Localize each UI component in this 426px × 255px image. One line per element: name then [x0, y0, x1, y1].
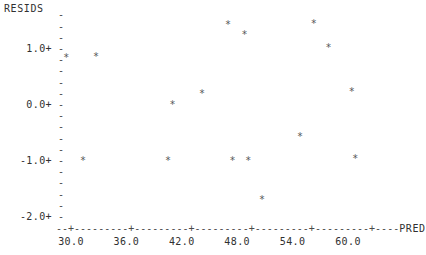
data-point-marker: * [244, 157, 252, 165]
y-axis-tick-label: 1.0+ [0, 43, 52, 54]
y-axis-tick-mark: - [57, 212, 65, 222]
y-axis-tick-mark: - [57, 10, 65, 20]
y-axis-tick-label: -2.0+ [0, 211, 52, 222]
x-axis-name: PRED [399, 223, 425, 234]
x-axis-tick-label: 54.0 [280, 236, 306, 247]
data-point-marker: * [229, 157, 237, 165]
x-axis-tick-label: 42.0 [169, 236, 195, 247]
data-point-marker: * [258, 196, 266, 204]
x-axis-tick-label: 60.0 [335, 236, 361, 247]
data-point-marker: * [169, 101, 177, 109]
data-point-marker: * [325, 44, 333, 52]
data-point-marker: * [351, 155, 359, 163]
data-point-marker: * [92, 53, 100, 61]
data-point-marker: * [62, 54, 70, 62]
data-point-marker: * [241, 31, 249, 39]
y-axis-tick-mark: - [57, 145, 65, 155]
y-axis-tick-mark: - [57, 100, 65, 110]
y-axis-tick-mark: - [57, 89, 65, 99]
data-point-marker: * [224, 21, 232, 29]
data-point-marker: * [79, 157, 87, 165]
y-axis-tick-mark: - [57, 190, 65, 200]
y-axis-tick-mark: - [57, 178, 65, 188]
y-axis-title: RESIDS [4, 3, 44, 14]
x-axis-tick-label: 36.0 [114, 236, 140, 247]
data-point-marker: * [198, 90, 206, 98]
y-axis-tick-mark: - [57, 156, 65, 166]
y-axis-tick-mark: - [57, 33, 65, 43]
y-axis-tick-mark: - [57, 122, 65, 132]
x-axis-tick-label: 30.0 [58, 236, 84, 247]
x-axis-line: --+---------+---------+---------+-------… [56, 223, 426, 234]
data-point-marker: * [164, 157, 172, 165]
x-axis-glyph-run: --+---------+---------+---------+-------… [56, 223, 399, 234]
x-axis-tick-label: 48.0 [224, 236, 250, 247]
data-point-marker: * [296, 133, 304, 141]
y-axis-tick-label: 0.0+ [0, 99, 52, 110]
data-point-marker: * [310, 20, 318, 28]
y-axis-tick-mark: - [57, 78, 65, 88]
y-axis-tick-mark: - [57, 167, 65, 177]
y-axis-tick-mark: - [57, 201, 65, 211]
y-axis-tick-mark: - [57, 111, 65, 121]
data-point-marker: * [348, 88, 356, 96]
y-axis-tick-mark: - [57, 22, 65, 32]
y-axis-tick-mark: - [57, 134, 65, 144]
y-axis-tick-label: -1.0+ [0, 155, 52, 166]
y-axis-tick-mark: - [57, 66, 65, 76]
